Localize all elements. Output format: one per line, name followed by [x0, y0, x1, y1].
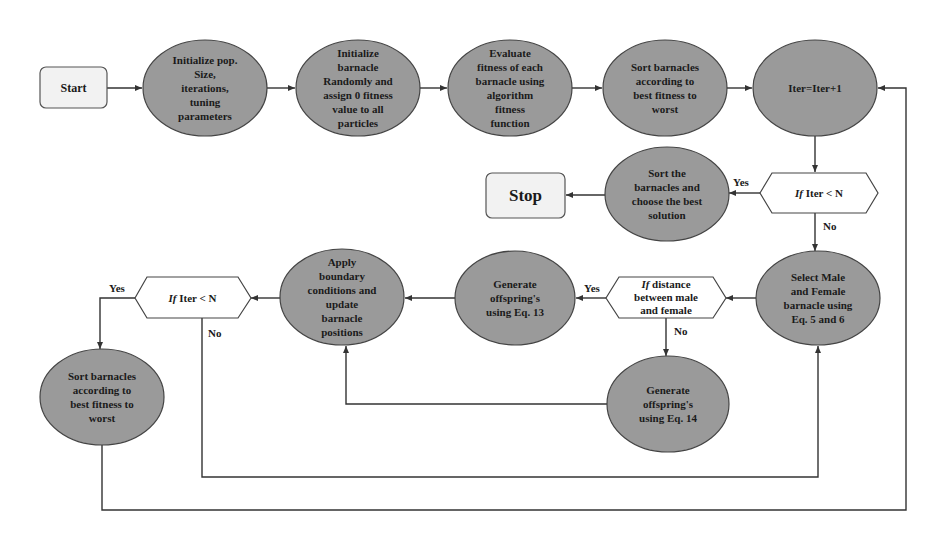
edge-label-top-yes: Yes: [733, 176, 749, 188]
boundary-label: Apply boundary conditions and update bar…: [280, 249, 404, 345]
edge-label-dist-yes: Yes: [584, 282, 600, 294]
edge-label-top-no: No: [823, 220, 836, 232]
edge-cond-left-yes: [100, 298, 135, 349]
edge-label-dist-no: No: [674, 325, 687, 337]
edge-gen14-to-boundary: [346, 346, 607, 404]
stop-label: Stop: [486, 173, 565, 218]
cond-top-label: If Iter < N: [772, 173, 866, 213]
cond-left-if: If: [169, 291, 177, 305]
iter-inc-label: Iter=Iter+1: [753, 40, 877, 136]
select-label: Select Male and Female barnacle using Eq…: [756, 251, 880, 345]
cond-top-if: If: [795, 186, 803, 200]
sort-top-label: Sort barnacles according to best fitness…: [603, 40, 727, 136]
cond-top-expr: Iter < N: [803, 186, 843, 200]
evaluate-label: Evaluate fitness of each barnacle using …: [448, 40, 572, 136]
edge-label-left-yes: Yes: [109, 282, 125, 294]
sort-left-label: Sort barnacles according to best fitness…: [40, 349, 164, 445]
init-pop-label: Initialize pop. Size, iterations, tuning…: [143, 40, 267, 136]
cond-left-expr: Iter < N: [176, 291, 216, 305]
gen14-label: Generate offspring's using Eq. 14: [607, 356, 729, 452]
gen13-label: Generate offspring's using Eq. 13: [455, 251, 575, 345]
start-label: Start: [40, 67, 107, 108]
edge-label-left-no: No: [208, 327, 221, 339]
cond-left-label: If Iter < N: [147, 277, 238, 318]
cond-distance-label: If distance between male and female: [619, 277, 713, 318]
init-barnacle-label: Initialize barnacle Randomly and assign …: [296, 40, 420, 136]
sort-best-label: Sort the barnacles and choose the best s…: [605, 147, 729, 241]
